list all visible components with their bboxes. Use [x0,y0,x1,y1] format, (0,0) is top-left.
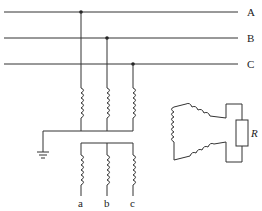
primary-coil-a [81,88,84,131]
ground-icon [37,131,49,158]
circuit-diagram: A B C R a b c [0,0,262,211]
primary-coil-b [107,88,110,131]
label-terminal-c: c [130,197,135,209]
label-resistor: R [250,127,258,139]
open-delta-winding [172,103,243,162]
label-line-a: A [247,6,255,18]
resistor-r [236,120,248,146]
secondary-coil-b [107,143,110,196]
secondary-coil-a [81,143,84,196]
label-terminal-b: b [104,197,110,209]
primary-coil-c [133,88,136,131]
label-line-c: C [247,58,254,70]
label-line-b: B [247,32,254,44]
secondary-coil-c [133,143,136,196]
label-terminal-a: a [78,197,83,209]
